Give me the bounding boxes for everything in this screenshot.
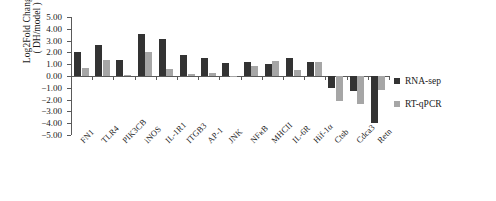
y-tick: 3.00 [67, 41, 71, 42]
bar [74, 52, 81, 76]
x-tick [177, 76, 178, 80]
y-tick: 5.00 [67, 17, 71, 18]
y-tick-label: 4.00 [46, 24, 62, 33]
x-tick [325, 76, 326, 80]
y-tick: −4.00 [67, 123, 71, 124]
x-tick [262, 76, 263, 80]
y-tick: −3.00 [67, 111, 71, 112]
x-tick [113, 76, 114, 80]
y-tick-label: 0.00 [46, 72, 62, 81]
y-tick: 2.00 [67, 52, 71, 53]
y-tick: 1.00 [67, 64, 71, 65]
bar [209, 73, 216, 76]
y-tick: −2.00 [67, 100, 71, 101]
bar [230, 76, 237, 77]
x-tick [135, 76, 136, 80]
x-tick [347, 76, 348, 80]
y-tick-label: −4.00 [41, 119, 62, 128]
bar [265, 64, 272, 76]
bar [315, 62, 322, 76]
chart-legend: RNA-sep RT-qPCR [394, 76, 442, 122]
bar [357, 76, 364, 104]
x-tick [92, 76, 93, 80]
x-tick [219, 76, 220, 80]
bar [336, 76, 343, 101]
bar [244, 62, 251, 76]
bar [286, 58, 293, 76]
bar [201, 58, 208, 76]
x-tick [156, 76, 157, 80]
bar [166, 69, 173, 76]
bar [272, 61, 279, 76]
bar [378, 76, 385, 90]
x-tick [283, 76, 284, 80]
y-tick: −5.00 [67, 135, 71, 136]
bar [251, 66, 258, 76]
x-tick [368, 76, 369, 80]
bar [222, 63, 229, 76]
y-axis-title-subtext: ( DH/model ) [32, 2, 42, 53]
bar [307, 62, 314, 76]
x-tick [198, 76, 199, 80]
x-tick [241, 76, 242, 80]
x-tick [389, 76, 390, 80]
y-tick-label: −3.00 [41, 107, 62, 116]
x-tick [71, 76, 72, 80]
bar [103, 60, 110, 76]
y-tick-label: 2.00 [46, 48, 62, 57]
y-tick-label: 5.00 [46, 13, 62, 22]
y-tick: −1.00 [67, 88, 71, 89]
y-axis-title-text: Log2Fold Change [22, 0, 32, 88]
bar [145, 52, 152, 76]
y-tick-label: 3.00 [46, 36, 62, 45]
bar [350, 76, 357, 91]
bar [328, 76, 335, 88]
bar [95, 45, 102, 76]
bar [124, 75, 131, 76]
legend-label: RNA-sep [405, 76, 441, 86]
y-tick-label: −5.00 [41, 131, 62, 140]
legend-item-rna-sep: RNA-sep [394, 76, 442, 86]
y-tick: 4.00 [67, 29, 71, 30]
legend-item-rt-qpcr: RT-qPCR [394, 99, 442, 109]
bar [294, 70, 301, 76]
bar [371, 76, 378, 123]
legend-label: RT-qPCR [405, 99, 442, 109]
bar [116, 60, 123, 76]
y-tick-label: 1.00 [46, 60, 62, 69]
x-tick [304, 76, 305, 80]
legend-swatch-icon [394, 78, 400, 84]
y-tick-label: −1.00 [41, 83, 62, 92]
legend-swatch-icon [394, 101, 400, 107]
bar [180, 55, 187, 76]
y-tick-label: −2.00 [41, 95, 62, 104]
bar [188, 74, 195, 76]
bar [138, 34, 145, 76]
bar [82, 68, 89, 76]
bar [159, 39, 166, 76]
bar-chart-figure: Log2Fold Change ( DH/model ) 5.004.003.0… [0, 0, 496, 201]
plot-area: 5.004.003.002.001.000.00−1.00−2.00−3.00−… [71, 17, 389, 135]
